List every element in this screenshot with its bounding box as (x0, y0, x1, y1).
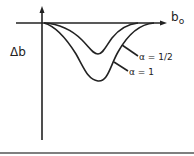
x-axis-label-subscript: o (179, 16, 185, 26)
curve-alpha-half (44, 23, 138, 54)
curve-label-alpha-one: α = 1 (129, 68, 154, 77)
x-axis-label-base: b (171, 10, 179, 24)
x-axis-arrow-icon (160, 21, 167, 26)
diagram-canvas (0, 0, 194, 156)
label-leader-half (122, 45, 138, 56)
y-axis-arrow-icon (40, 6, 45, 13)
x-axis-label: bo (171, 11, 184, 26)
label-leader-one (114, 62, 128, 71)
y-axis-label: Δb (10, 46, 26, 58)
curve-label-alpha-half: α = 1/2 (139, 53, 173, 62)
